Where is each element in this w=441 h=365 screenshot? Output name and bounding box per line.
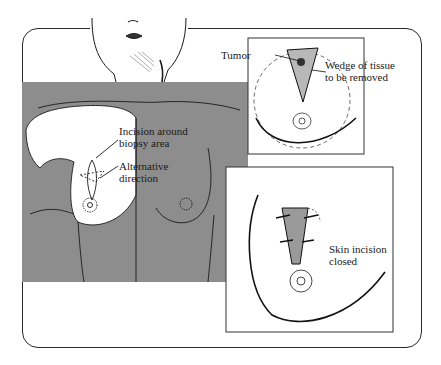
label-line: direction (119, 172, 168, 184)
label-skin-incision-closed: Skin incision closed (329, 243, 387, 267)
label-line: biopsy area (119, 137, 188, 149)
label-line: Skin incision (329, 243, 387, 255)
label-line: Wedge of tissue (325, 59, 395, 71)
label-line: closed (329, 255, 387, 267)
label-incision-around-biopsy: Incision around biopsy area (119, 125, 188, 149)
label-wedge-of-tissue: Wedge of tissue to be removed (325, 59, 395, 83)
label-line: Alternative (119, 160, 168, 172)
inset-top-drawing (248, 38, 364, 154)
head-drawing (90, 0, 188, 82)
label-line: to be removed (325, 71, 395, 83)
label-line: Incision around (119, 125, 188, 137)
label-tumor: Tumor (221, 49, 251, 61)
label-alternative-direction: Alternative direction (119, 160, 168, 184)
label-line: Tumor (221, 49, 251, 61)
